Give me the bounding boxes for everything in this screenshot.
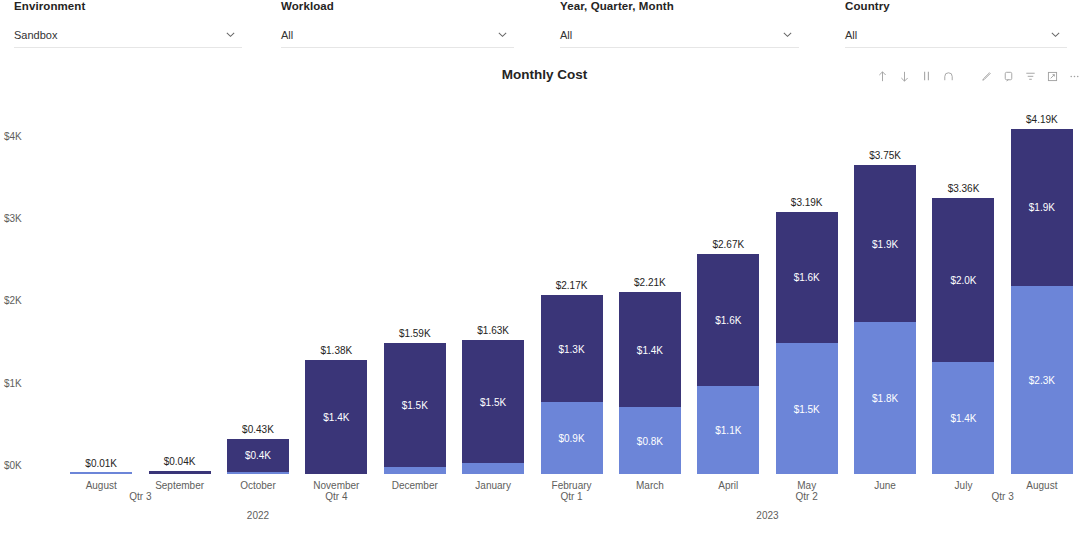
bar-slot: $0.43K$0.4K (219, 96, 297, 474)
slicer-year-quarter-month[interactable]: Year, Quarter, Month All (560, 0, 799, 48)
stacked-bar[interactable]: $4.19K$1.9K$2.3K (1011, 129, 1073, 474)
bar-total-label: $0.04K (129, 456, 231, 467)
chevron-down-icon[interactable] (782, 29, 793, 40)
focus-mode-icon[interactable] (1046, 70, 1059, 83)
bar-total-label: $3.19K (756, 197, 858, 208)
bar-segment-dark[interactable]: $1.9K (1011, 129, 1073, 285)
bar-total-label: $4.19K (991, 114, 1089, 125)
x-axis-month-label[interactable]: August (1003, 474, 1081, 491)
drill-mode-icon[interactable] (942, 70, 955, 83)
bar-segment-dark[interactable]: $1.6K (776, 212, 838, 344)
x-axis-quarter-label[interactable]: Qtr 3 (62, 491, 219, 502)
slicer-period-dropdown[interactable]: All (560, 25, 799, 48)
bar-segment-label: $1.4K (619, 344, 681, 355)
bar-segment-label: $1.9K (854, 238, 916, 249)
x-axis-month-label[interactable]: March (611, 474, 689, 491)
chevron-down-icon[interactable] (225, 29, 236, 40)
monthly-cost-chart: $0K$1K$2K$3K$4K $0.01K$0.04K$0.43K$0.4K$… (0, 96, 1089, 538)
x-axis-year-label[interactable]: 2022 (62, 510, 454, 521)
bar-segment-dark[interactable]: $1.5K (462, 340, 524, 463)
y-axis-tick: $0K (4, 460, 56, 471)
stacked-bar[interactable]: $1.38K$1.4K (305, 360, 367, 474)
slicer-period-label: Year, Quarter, Month (560, 0, 799, 12)
slicer-workload-value: All (281, 25, 514, 45)
bar-segment-dark[interactable]: $1.4K (619, 292, 681, 407)
plot-area: $0K$1K$2K$3K$4K $0.01K$0.04K$0.43K$0.4K$… (62, 96, 1081, 474)
slicer-workload-dropdown[interactable]: All (281, 25, 514, 48)
x-axis-quarter-labels: Qtr 3Qtr 4Qtr 1Qtr 2Qtr 3 (62, 491, 1081, 510)
bar-segment-dark[interactable]: $1.4K (305, 360, 367, 474)
x-axis-quarter-label[interactable]: Qtr 1 (454, 491, 689, 502)
slicer-environment-value: Sandbox (14, 25, 242, 45)
x-axis-month-label[interactable]: December (376, 474, 454, 491)
chevron-down-icon[interactable] (497, 29, 508, 40)
bar-total-label: $2.67K (677, 239, 779, 250)
bar-slot: $4.19K$1.9K$2.3K (1003, 96, 1081, 474)
bar-segment-light[interactable]: $1.1K (697, 386, 759, 474)
y-axis-tick: $3K (4, 213, 56, 224)
bar-segment-label: $1.5K (462, 396, 524, 407)
bar-segment-dark[interactable]: $2.0K (932, 198, 994, 363)
stacked-bar[interactable]: $3.19K$1.6K$1.5K (776, 212, 838, 474)
stacked-bar[interactable]: $2.67K$1.6K$1.1K (697, 254, 759, 474)
x-axis-month-label[interactable]: April (689, 474, 767, 491)
x-axis-month-label[interactable]: November (297, 474, 375, 491)
bar-segment-dark[interactable]: $1.5K (384, 343, 446, 466)
slicer-country-dropdown[interactable]: All (845, 25, 1067, 48)
stacked-bar[interactable]: $1.59K$1.5K (384, 343, 446, 474)
edit-pencil-icon[interactable] (980, 70, 993, 83)
stacked-bar[interactable]: $3.36K$2.0K$1.4K (932, 198, 994, 474)
comment-icon[interactable] (1002, 70, 1015, 83)
expand-hierarchy-icon[interactable] (920, 70, 933, 83)
x-axis-quarter-label[interactable]: Qtr 2 (689, 491, 924, 502)
bar-segment-dark[interactable]: $0.4K (227, 439, 289, 472)
slicer-environment-dropdown[interactable]: Sandbox (14, 25, 242, 48)
drill-up-arrow-icon[interactable] (876, 70, 889, 83)
bar-segment-light[interactable]: $0.8K (619, 407, 681, 474)
x-axis-month-label[interactable]: January (454, 474, 532, 491)
slicer-period-value: All (560, 25, 799, 45)
slicer-environment[interactable]: Environment Sandbox (14, 0, 242, 48)
bar-segment-dark[interactable]: $1.3K (541, 295, 603, 402)
x-axis-month-label[interactable]: August (62, 474, 140, 491)
x-axis-month-label[interactable]: July (924, 474, 1002, 491)
slicer-country-value: All (845, 25, 1067, 45)
bar-segment-light[interactable] (462, 463, 524, 474)
x-axis-month-label[interactable]: September (140, 474, 218, 491)
drill-down-arrow-icon[interactable] (898, 70, 911, 83)
slicer-workload[interactable]: Workload All (281, 0, 514, 48)
stacked-bar[interactable]: $3.75K$1.9K$1.8K (854, 165, 916, 474)
bar-segment-dark[interactable]: $1.6K (697, 254, 759, 386)
bar-segment-light[interactable] (384, 467, 446, 474)
bar-segment-light[interactable]: $0.9K (541, 402, 603, 474)
x-axis-quarter-label[interactable]: Qtr 3 (924, 491, 1081, 502)
filter-icon[interactable] (1024, 70, 1037, 83)
stacked-bar[interactable]: $1.63K$1.5K (462, 340, 524, 474)
bar-slot: $3.75K$1.9K$1.8K (846, 96, 924, 474)
stacked-bar[interactable]: $2.17K$1.3K$0.9K (541, 295, 603, 474)
bar-segment-label: $0.4K (227, 450, 289, 461)
bar-segment-label: $0.8K (619, 435, 681, 446)
slicer-country[interactable]: Country All (845, 0, 1067, 48)
more-options-icon[interactable] (1068, 70, 1081, 83)
x-axis-month-label[interactable]: May (768, 474, 846, 491)
x-axis-year-label[interactable]: 2023 (454, 510, 1081, 521)
bar-slot: $2.21K$1.4K$0.8K (611, 96, 689, 474)
slicer-environment-label: Environment (14, 0, 242, 12)
x-axis-month-label[interactable]: June (846, 474, 924, 491)
x-axis-month-label[interactable]: October (219, 474, 297, 491)
x-axis-month-label[interactable]: February (532, 474, 610, 491)
bar-segment-label: $1.5K (384, 399, 446, 410)
bar-segment-light[interactable]: $1.4K (932, 362, 994, 474)
bar-segment-dark[interactable]: $1.9K (854, 165, 916, 321)
bar-segment-light[interactable]: $1.8K (854, 322, 916, 474)
bar-segment-light[interactable]: $1.5K (776, 343, 838, 474)
bar-total-label: $1.38K (285, 345, 387, 356)
x-axis-quarter-label[interactable]: Qtr 4 (219, 491, 454, 502)
stacked-bar[interactable]: $0.43K$0.4K (227, 439, 289, 474)
bar-slot: $1.59K$1.5K (376, 96, 454, 474)
bar-segment-light[interactable]: $2.3K (1011, 286, 1073, 474)
bar-segment-label: $1.4K (932, 413, 994, 424)
chevron-down-icon[interactable] (1050, 29, 1061, 40)
stacked-bar[interactable]: $2.21K$1.4K$0.8K (619, 292, 681, 474)
